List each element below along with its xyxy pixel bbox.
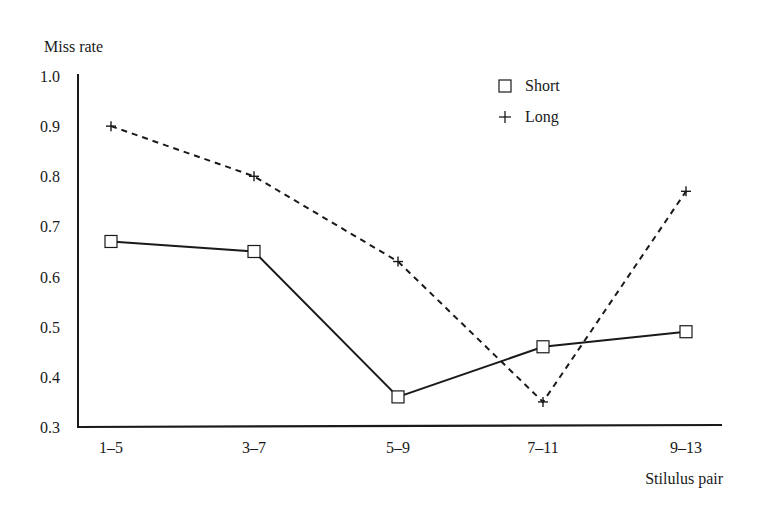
x-tick-label: 5–9 <box>386 439 410 456</box>
y-tick-label: 1.0 <box>40 68 60 85</box>
series-long <box>106 121 691 407</box>
x-axis <box>77 425 722 427</box>
x-tick-label: 9–13 <box>670 439 702 456</box>
legend-label-long: Long <box>525 108 559 126</box>
y-tick-label: 0.5 <box>40 319 60 336</box>
square-marker <box>392 391 404 403</box>
square-marker <box>537 341 549 353</box>
y-axis-label: Miss rate <box>44 38 103 55</box>
y-tick-label: 0.9 <box>40 118 60 135</box>
legend-label-short: Short <box>525 77 560 94</box>
plus-marker <box>106 121 116 131</box>
x-axis-label: Stilulus pair <box>645 470 723 488</box>
y-tick-label: 0.3 <box>40 419 60 436</box>
plus-marker <box>538 397 548 407</box>
x-tick-label: 1–5 <box>99 439 123 456</box>
square-marker <box>680 326 692 338</box>
plus-icon <box>499 111 511 123</box>
y-tick-label: 0.7 <box>40 218 60 235</box>
y-axis-ticks: 0.30.40.50.60.70.80.91.0 <box>40 68 60 436</box>
x-tick-label: 3–7 <box>242 439 266 456</box>
x-tick-label: 7–11 <box>527 439 558 456</box>
square-marker <box>248 246 260 258</box>
y-tick-label: 0.6 <box>40 269 60 286</box>
line-chart: Miss rate 0.30.40.50.60.70.80.91.0 1–53–… <box>0 0 757 515</box>
square-icon <box>499 80 511 92</box>
x-axis-ticks: 1–53–75–97–119–13 <box>99 439 702 456</box>
square-marker <box>105 235 117 247</box>
plus-marker <box>249 171 259 181</box>
y-tick-label: 0.8 <box>40 168 60 185</box>
y-tick-label: 0.4 <box>40 369 60 386</box>
legend: Short Long <box>499 77 560 126</box>
